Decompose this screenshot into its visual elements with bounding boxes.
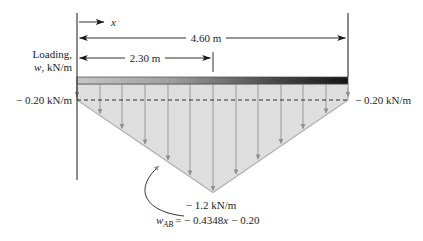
peak-intensity-label: − 1.2 kN/m xyxy=(186,199,237,211)
equation-mid: = − 0.4348 xyxy=(175,214,224,226)
equation-x: x xyxy=(222,214,228,226)
equation-end: − 0.20 xyxy=(231,214,260,226)
right-intensity-label: − 0.20 kN/m xyxy=(355,94,411,106)
equation-subscript: AB xyxy=(162,220,173,229)
loading-caption-line2: w, kN/m xyxy=(34,61,72,73)
dimension-half: 2.30 m xyxy=(80,52,211,64)
x-axis-label: x xyxy=(110,16,116,28)
loading-caption-units: , kN/m xyxy=(41,61,72,73)
loading-diagram: x 4.60 m 2.30 m Loading, w, kN/m − 0.20 … xyxy=(0,0,423,241)
left-intensity-label: − 0.20 kN/m xyxy=(16,94,72,106)
dimension-total: 4.60 m xyxy=(80,32,346,44)
dim-total-label: 4.60 m xyxy=(191,32,222,44)
load-equation: wAB= − 0.4348x− 0.20 xyxy=(156,214,260,229)
loading-caption-line1: Loading, xyxy=(33,48,73,60)
beam-bar xyxy=(77,77,348,84)
diagram-canvas: x 4.60 m 2.30 m Loading, w, kN/m − 0.20 … xyxy=(0,0,423,241)
equation-leader-arrow xyxy=(145,166,184,216)
dim-half-label: 2.30 m xyxy=(130,52,161,64)
